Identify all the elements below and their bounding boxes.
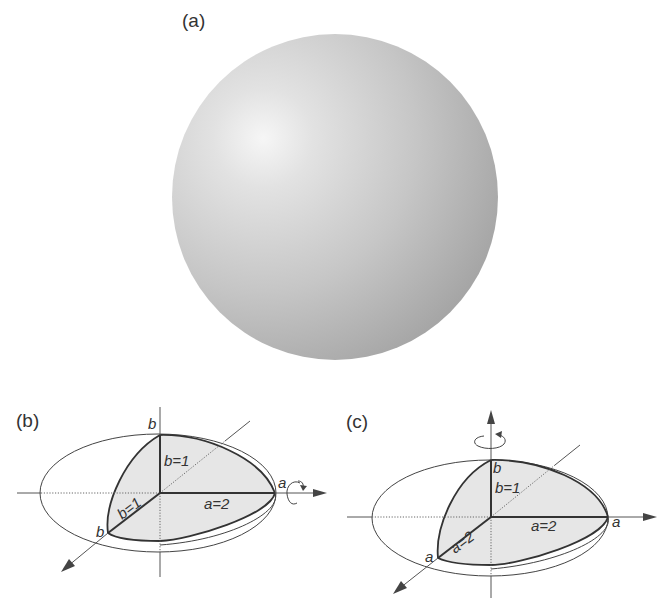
label-top-b: b	[148, 415, 156, 432]
panel-b: (b) b b=1 a a=2 b b=1	[16, 407, 327, 577]
spheroid-figure: (a) (b) b b=1 a	[0, 0, 658, 599]
panel-b-label: (b)	[16, 410, 39, 431]
label-vertical-b1: b=1	[495, 479, 520, 496]
rotation-arrowhead-icon	[300, 485, 307, 491]
label-top-b: b	[493, 459, 501, 476]
label-front-a: a	[425, 548, 433, 565]
label-horizontal-a2: a=2	[204, 495, 230, 512]
label-horizontal-a2: a=2	[531, 517, 557, 534]
arrowhead-up-icon	[487, 410, 495, 424]
arrowhead-right-icon	[643, 513, 657, 521]
label-front-b: b	[96, 523, 104, 540]
arrowhead-diagonal-icon	[393, 581, 407, 594]
panel-a: (a)	[172, 10, 498, 360]
panel-c-label: (c)	[346, 411, 368, 432]
panel-c: (c) b b=1 a a=2 a a=2	[346, 410, 657, 598]
diagonal-axis-top	[555, 445, 580, 465]
rotation-arrowhead-icon	[495, 431, 502, 438]
arrowhead-right-icon	[313, 489, 327, 497]
sphere	[172, 34, 498, 360]
shaded-octant	[108, 435, 275, 541]
panel-a-label: (a)	[182, 10, 205, 31]
label-right-a: a	[612, 513, 620, 530]
arrowhead-diagonal-icon	[61, 559, 75, 572]
label-vertical-b1: b=1	[164, 452, 189, 469]
diagonal-axis-top	[225, 421, 250, 441]
label-right-a: a	[278, 474, 286, 491]
